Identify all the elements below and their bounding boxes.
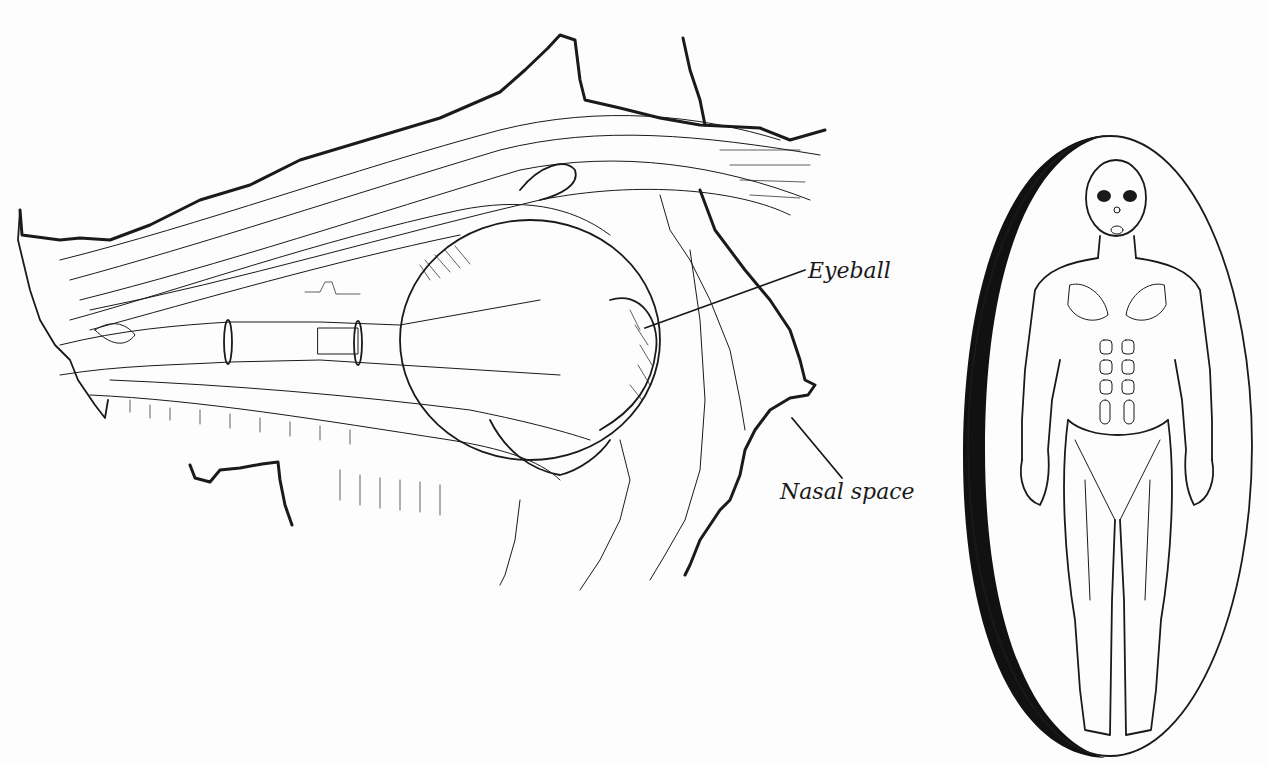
inferior-rectus-muscle (90, 380, 610, 515)
lateral-rectus-muscle (60, 282, 560, 375)
anatomy-figure: Eyeball Nasal space (0, 0, 1268, 765)
orbit-bone-outline (18, 35, 825, 590)
eyeball-label: Eyeball (808, 258, 891, 283)
eyeball-globe (400, 220, 660, 460)
oval-shadow (963, 135, 1108, 758)
trochlea (520, 164, 576, 200)
body-head (1086, 160, 1146, 236)
nasal-space-label: Nasal space (780, 479, 915, 504)
body-inset (963, 135, 1252, 758)
orbit-muscles-illustration (0, 0, 1268, 765)
abdominal-muscles (1100, 340, 1134, 424)
nasal-space-leader-line (792, 418, 842, 478)
eyeball-leader-line (645, 270, 805, 328)
